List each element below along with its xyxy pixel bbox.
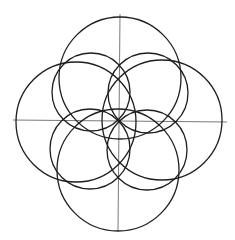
center-point [118, 120, 121, 123]
rosette-diagram [0, 0, 235, 240]
